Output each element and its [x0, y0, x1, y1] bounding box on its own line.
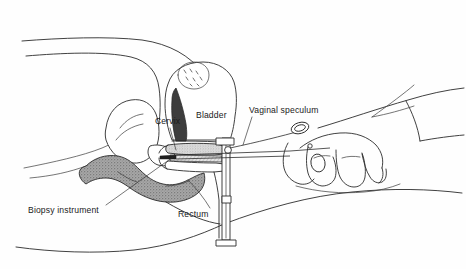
- biopsy-scissor-arm: [230, 131, 300, 148]
- biopsy-jaw-tip: [160, 155, 176, 159]
- sleeve-cuff-arc: [406, 101, 420, 141]
- speculum-mid-clamp: [222, 196, 231, 203]
- organ-group: [79, 62, 236, 224]
- label-cervix: Cervix: [155, 116, 181, 126]
- knuckle-crease-2: [342, 156, 360, 158]
- vaginal-wall-upper: [172, 141, 219, 142]
- thigh-upper-contour: [224, 189, 462, 224]
- label-biopsy-instrument: Biopsy instrument: [28, 205, 99, 215]
- clinician-hand-group: [283, 85, 464, 193]
- body-outline-group: [16, 38, 462, 252]
- leader-line-vaginal-speculum: [243, 117, 252, 145]
- label-vaginal-speculum: Vaginal speculum: [249, 105, 319, 115]
- thigh-lower-contour: [16, 224, 224, 252]
- middle-finger-contour: [336, 150, 365, 187]
- flank-tissue-wisp: [30, 166, 86, 178]
- illustration-canvas: Cervix Bladder Vaginal speculum Biopsy i…: [0, 0, 466, 269]
- medical-illustration-figure: Cervix Bladder Vaginal speculum Biopsy i…: [0, 0, 466, 269]
- abdomen-upper-contour: [22, 38, 202, 72]
- forearm-upper-contour: [318, 88, 464, 128]
- speculum-top-bracket: [216, 138, 234, 145]
- speculum-base-foot: [216, 240, 236, 246]
- label-bladder: Bladder: [196, 110, 227, 120]
- biopsy-hinge-pin: [308, 144, 312, 148]
- arm-pointer-line-2: [372, 106, 414, 117]
- forearm-lower-contour: [420, 135, 464, 141]
- speculum-lower-blade: [165, 161, 224, 172]
- little-finger-contour: [379, 168, 383, 183]
- label-rectum: Rectum: [178, 209, 209, 219]
